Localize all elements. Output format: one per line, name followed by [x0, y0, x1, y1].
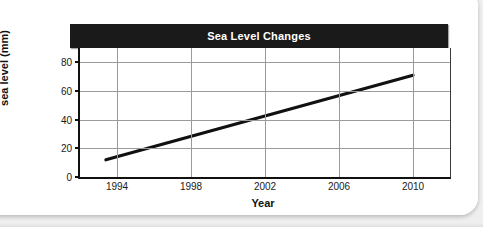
y-tick-mark — [75, 119, 80, 121]
x-gridline — [191, 48, 192, 177]
x-gridline — [339, 48, 340, 177]
y-tick-label: 60 — [61, 86, 72, 97]
x-tick-label: 2002 — [254, 181, 276, 192]
y-tick-mark — [75, 61, 80, 63]
y-axis-title: Change in mean sea level (mm) — [0, 4, 18, 133]
y-tick-label: 40 — [61, 114, 72, 125]
plot-area: 02040608019941998200220062010 — [78, 48, 451, 179]
chart-title: Sea Level Changes — [207, 30, 311, 42]
x-gridline — [117, 48, 118, 177]
screenshot-root: Sea Level Changes 0204060801994199820022… — [0, 0, 483, 227]
y-tick-mark — [75, 90, 80, 92]
y-tick-label: 0 — [66, 172, 72, 183]
page-bottom-edge — [0, 223, 483, 227]
chart-figure: Sea Level Changes 0204060801994199820022… — [0, 0, 483, 227]
x-gridline — [265, 48, 266, 177]
y-tick-label: 20 — [61, 143, 72, 154]
x-tick-label: 2010 — [402, 181, 424, 192]
series-polyline — [106, 75, 413, 160]
x-tick-label: 2006 — [328, 181, 350, 192]
y-tick-label: 80 — [61, 57, 72, 68]
y-tick-mark — [75, 176, 80, 178]
x-axis-title: Year — [78, 197, 448, 209]
x-tick-label: 1998 — [180, 181, 202, 192]
x-gridline — [413, 48, 414, 177]
y-axis-title-line2: sea level (mm) — [0, 30, 10, 106]
chart-title-bar: Sea Level Changes — [70, 24, 448, 48]
y-tick-mark — [75, 147, 80, 149]
x-tick-label: 1994 — [106, 181, 128, 192]
